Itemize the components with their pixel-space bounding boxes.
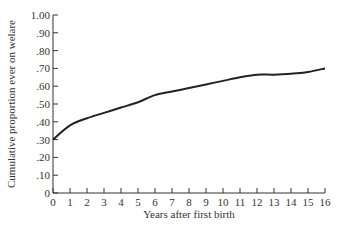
x-tick-label: 2 bbox=[84, 196, 90, 208]
axes bbox=[53, 15, 325, 193]
x-tick-label: 10 bbox=[218, 196, 230, 208]
y-tick-label: .20 bbox=[36, 151, 50, 163]
x-tick-label: 4 bbox=[118, 196, 124, 208]
y-tick-label: .50 bbox=[36, 98, 50, 110]
y-tick-label: .70 bbox=[36, 62, 50, 74]
x-tick-label: 3 bbox=[101, 196, 107, 208]
x-tick-label: 9 bbox=[203, 196, 209, 208]
x-axis-title: Years after first birth bbox=[143, 208, 235, 220]
x-tick-label: 8 bbox=[186, 196, 192, 208]
x-tick-label: 15 bbox=[303, 196, 315, 208]
y-axis-ticks: 0.10.20.30.40.50.60.70.80.901.00 bbox=[31, 9, 58, 199]
x-tick-label: 5 bbox=[135, 196, 141, 208]
y-tick-label: .40 bbox=[36, 116, 50, 128]
x-tick-label: 1 bbox=[67, 196, 73, 208]
x-tick-label: 7 bbox=[169, 196, 175, 208]
x-tick-label: 11 bbox=[235, 196, 246, 208]
y-tick-label: .10 bbox=[36, 169, 50, 181]
line-chart: 0.10.20.30.40.50.60.70.80.901.00 0123456… bbox=[0, 0, 345, 233]
y-tick-label: .30 bbox=[36, 134, 50, 146]
y-tick-label: 1.00 bbox=[31, 9, 51, 21]
x-axis-ticks: 012345678910111213141516 bbox=[50, 188, 331, 208]
x-tick-label: 16 bbox=[320, 196, 332, 208]
y-tick-label: .60 bbox=[36, 80, 50, 92]
y-tick-label: .80 bbox=[36, 45, 50, 57]
x-tick-label: 12 bbox=[252, 196, 263, 208]
x-tick-label: 0 bbox=[50, 196, 56, 208]
data-line bbox=[53, 68, 325, 139]
y-axis-title: Cumulative proportion ever on welare bbox=[5, 20, 17, 188]
y-tick-label: .90 bbox=[36, 27, 50, 39]
x-tick-label: 6 bbox=[152, 196, 158, 208]
x-tick-label: 14 bbox=[286, 196, 298, 208]
x-tick-label: 13 bbox=[269, 196, 281, 208]
